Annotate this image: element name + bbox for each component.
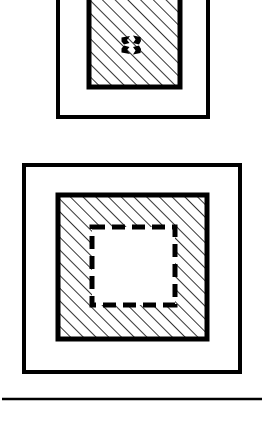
lower-dashed-inner-square-fill [92, 227, 175, 305]
upper-hatched-square-fill [89, 0, 180, 87]
technical-drawing-svg [0, 0, 264, 427]
diagram-canvas: Technical line drawing — nested square c… [0, 0, 264, 427]
lower-nested-square-figure [24, 165, 240, 372]
